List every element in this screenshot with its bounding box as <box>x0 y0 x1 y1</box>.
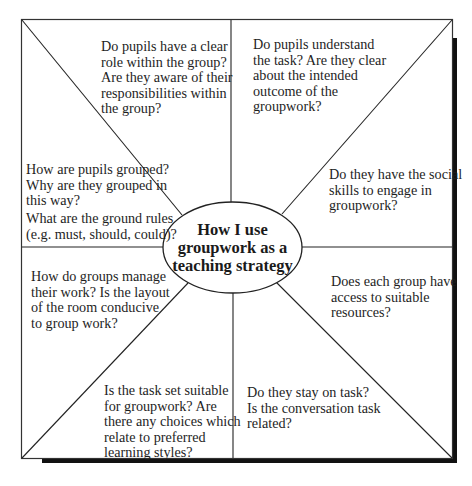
segment-left-upper-rules: What are the ground rules (e.g. must, sh… <box>26 211 177 242</box>
diagram-title: How I use groupwork as a teaching strate… <box>163 202 302 293</box>
segment-bottom-left: Is the task set suitable for groupwork? … <box>104 383 241 461</box>
segment-right-lower: Does each group have access to suitable … <box>331 274 457 321</box>
groupwork-diagram: How I use groupwork as a teaching strate… <box>0 0 472 486</box>
box-shadow-right <box>453 38 457 463</box>
segment-left-lower: How do groups manage their work? Is the … <box>31 269 170 331</box>
segment-bottom-right: Do they stay on task? Is the conversatio… <box>247 385 381 432</box>
segment-left-upper-grouping: How are pupils grouped? Why are they gro… <box>26 162 169 209</box>
segment-top-right: Do pupils understand the task? Are they … <box>253 37 386 115</box>
segment-right-upper: Do they have the social skills to engage… <box>329 167 462 214</box>
segment-top-left: Do pupils have a clear role within the g… <box>101 39 233 117</box>
